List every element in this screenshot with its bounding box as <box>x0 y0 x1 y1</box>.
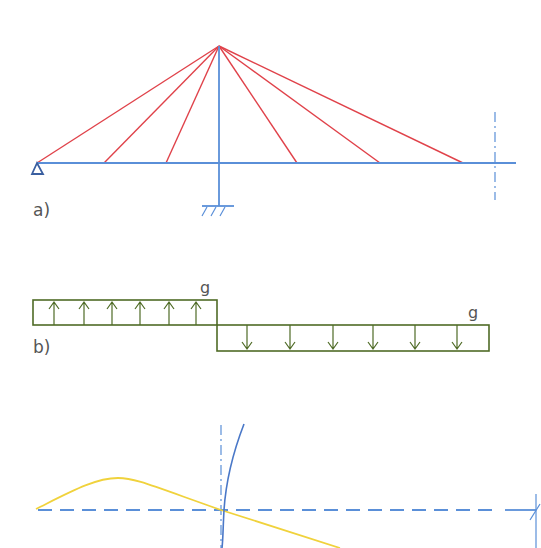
panel-b-label: b) <box>33 337 50 357</box>
cables <box>37 46 463 163</box>
yellow-deflection-curve <box>36 478 340 548</box>
pin-support-icon <box>32 163 43 174</box>
axes <box>38 425 540 548</box>
load-label-right: g <box>468 303 478 322</box>
load-label-left: g <box>200 278 210 297</box>
load-diagram <box>33 300 489 351</box>
down-arrows <box>242 325 462 349</box>
diagram-canvas <box>0 0 541 548</box>
panel-a-label: a) <box>33 200 50 220</box>
blue-moment-curve <box>222 424 244 548</box>
up-arrows <box>49 302 201 325</box>
